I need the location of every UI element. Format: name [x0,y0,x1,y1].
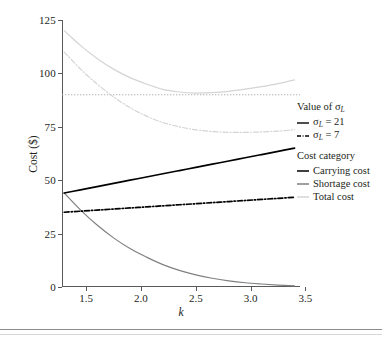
x-tick-label: 2.0 [134,292,148,304]
y-tick [58,287,62,288]
legend-sigma-title-subscript: L [341,105,345,114]
y-tick-label: 25 [45,228,56,240]
y-tick-label: 75 [45,121,56,133]
legend-label-carrying-cost: Carrying cost [313,164,370,178]
legend-key-dashdot-icon [297,131,310,141]
legend-label-sigma-7: σL = 7 [313,128,339,143]
series-carrying-cost-sigma-l-7 [64,197,294,212]
legend-item-shortage-cost[interactable]: Shortage cost [297,177,382,190]
plot-area: 0255075100125 1.52.02.53.03.5 Cost ($) k [62,20,300,287]
y-axis-label: Cost ($) [27,135,39,172]
legend-title-category: Cost category [297,149,382,163]
y-tick-label: 100 [39,67,56,79]
legend-item-total-cost[interactable]: Total cost [297,190,382,203]
y-tick-label: 125 [39,14,56,26]
x-tick-label: 1.5 [79,292,93,304]
x-tick [141,287,142,291]
legend-item-carrying-cost[interactable]: Carrying cost [297,164,382,177]
legend-label-shortage-cost: Shortage cost [313,177,370,191]
legend-key-carrying-icon [297,166,310,176]
x-tick [305,287,306,291]
y-tick-label: 50 [45,174,56,186]
legend-key-total-icon [297,192,310,202]
x-tick [251,287,252,291]
x-tick-label: 3.5 [299,292,313,304]
legend-sigma-title-text: Value of σ [297,101,341,112]
series-shortage-cost-sigma-l-21 [64,193,294,286]
legend-item-sigma-7[interactable]: σL = 7 [297,129,382,142]
x-tick-label: 2.5 [189,292,203,304]
chart-legend: Value of σL σL = 21 σL = 7 Cost category… [297,100,382,203]
x-tick [196,287,197,291]
legend-key-solid-icon [297,118,310,128]
series-carrying-cost-sigma-l-21 [64,148,294,193]
series-total-cost-sigma-l-21 [64,31,294,93]
legend-item-sigma-21[interactable]: σL = 21 [297,116,382,129]
x-tick-label: 3.0 [244,292,258,304]
figure-panel: 0255075100125 1.52.02.53.03.5 Cost ($) k… [0,0,382,347]
legend-key-shortage-icon [297,179,310,189]
figure-bottom-rule [0,329,382,330]
x-tick [86,287,87,291]
figure-bottom-rule-secondary [0,334,382,335]
chart-curves [62,20,300,287]
legend-separator [297,142,382,149]
legend-sigma-value-1: = 21 [323,116,345,127]
legend-title-sigma: Value of σL [297,100,382,115]
x-axis-label: k [178,306,183,318]
legend-sigma-value-2: = 7 [323,129,339,140]
legend-label-total-cost: Total cost [313,190,354,204]
y-tick-label: 0 [50,281,56,293]
